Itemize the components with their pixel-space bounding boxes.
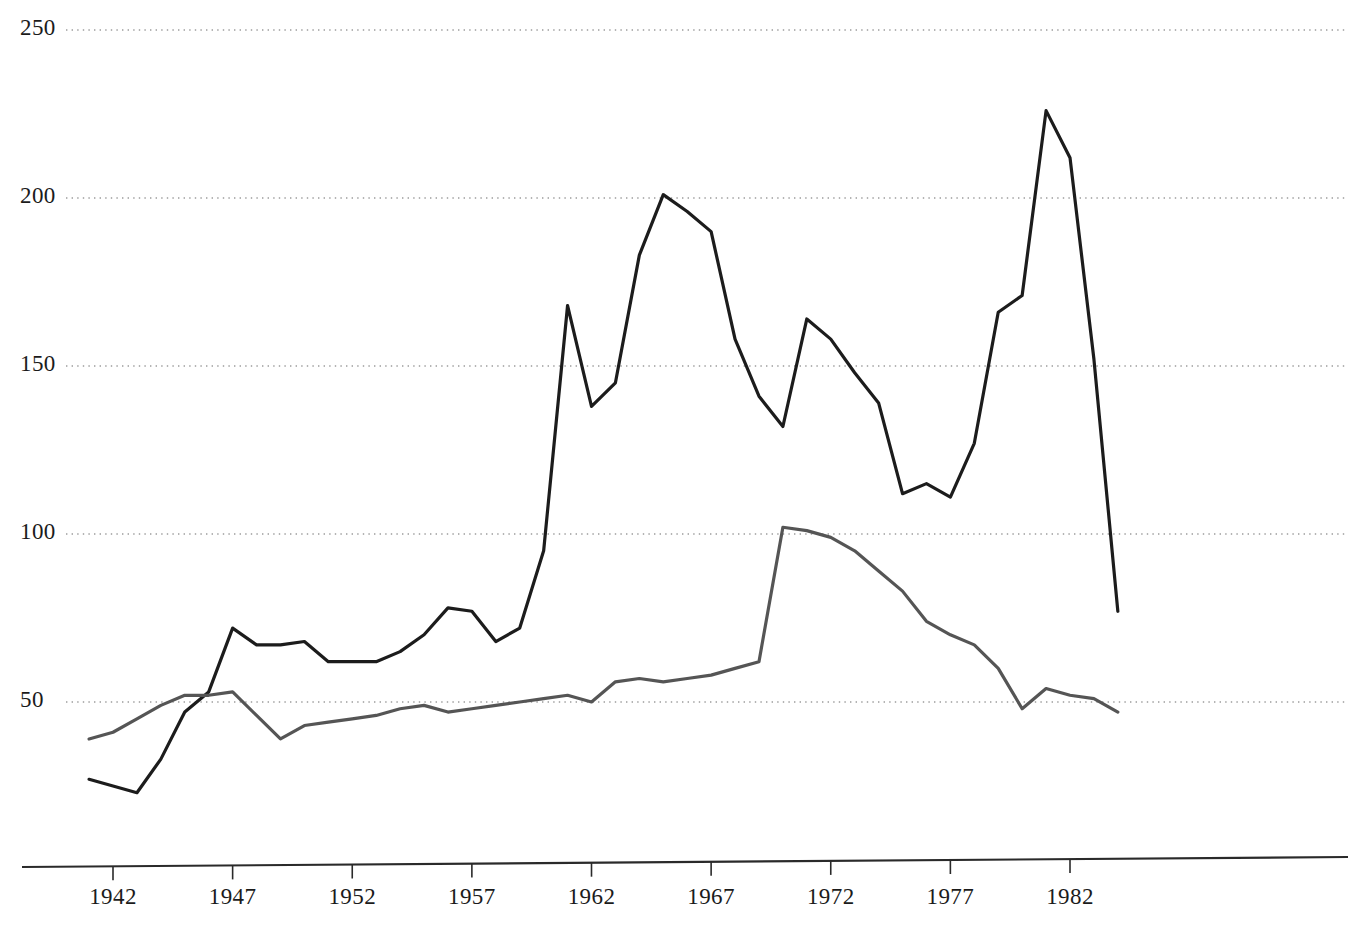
y-tick-label-150: 150 <box>20 351 56 377</box>
x-tick-label-1952: 1952 <box>328 884 376 910</box>
x-tick-label-1962: 1962 <box>568 884 616 910</box>
x-axis-line <box>22 857 1348 867</box>
y-tick-label-250: 250 <box>20 15 56 41</box>
x-tick-label-1977: 1977 <box>927 884 975 910</box>
data-series-group <box>89 111 1118 793</box>
line-chart-canvas <box>0 0 1363 932</box>
chart-container: 50100150200250 1942194719521957196219671… <box>0 0 1363 932</box>
y-tick-label-50: 50 <box>20 687 44 713</box>
x-tick-label-1942: 1942 <box>89 884 137 910</box>
x-tick-label-1967: 1967 <box>687 884 735 910</box>
y-tick-label-200: 200 <box>20 183 56 209</box>
x-axis-group <box>22 857 1348 867</box>
data-line-series-gray <box>89 527 1118 739</box>
x-tick-label-1972: 1972 <box>807 884 855 910</box>
x-tick-label-1947: 1947 <box>209 884 257 910</box>
y-tick-label-100: 100 <box>20 519 56 545</box>
x-tick-label-1982: 1982 <box>1046 884 1094 910</box>
x-tick-label-1957: 1957 <box>448 884 496 910</box>
gridlines-group <box>66 30 1348 702</box>
